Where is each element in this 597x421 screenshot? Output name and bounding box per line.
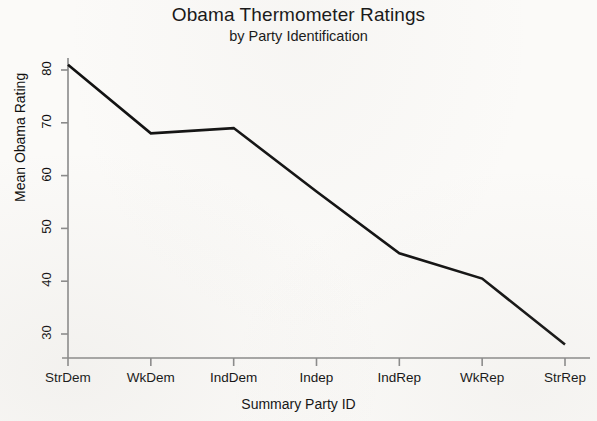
x-axis-tick-label: StrDem bbox=[23, 370, 113, 385]
x-axis-title: Summary Party ID bbox=[0, 396, 597, 412]
y-axis-tick-label: 40 bbox=[39, 270, 54, 290]
y-axis-tick-label: 70 bbox=[39, 111, 54, 131]
x-axis-ticks bbox=[68, 358, 565, 366]
plot-area bbox=[0, 0, 597, 421]
x-axis-tick-label: WkRep bbox=[437, 370, 527, 385]
chart-figure: Obama Thermometer Ratings by Party Ident… bbox=[0, 0, 597, 421]
y-axis-tick-label: 80 bbox=[39, 59, 54, 79]
data-series-line bbox=[68, 65, 565, 345]
y-axis-tick-label: 50 bbox=[39, 217, 54, 237]
y-axis-tick-label: 30 bbox=[39, 323, 54, 343]
x-axis-tick-label: Indep bbox=[272, 370, 362, 385]
y-axis-tick-label: 60 bbox=[39, 164, 54, 184]
x-axis-tick-label: IndDem bbox=[189, 370, 279, 385]
x-axis-tick-label: IndRep bbox=[354, 370, 444, 385]
y-axis-ticks bbox=[61, 70, 68, 334]
x-axis-tick-label: WkDem bbox=[106, 370, 196, 385]
x-axis-tick-label: StrRep bbox=[520, 370, 597, 385]
